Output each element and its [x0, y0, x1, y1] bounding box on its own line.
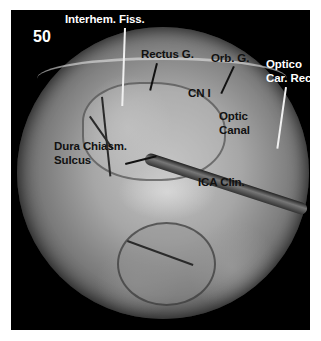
label-cn-i: CN I — [188, 87, 211, 100]
label-optic-canal-line1: Optic — [219, 110, 248, 123]
image-panel: 50 Interhem. Fiss. Rectus G. Orb. G. Opt… — [11, 10, 310, 330]
label-optic-canal-line2: Canal — [219, 124, 250, 137]
label-optico-car-rec-line2: Car. Rec. — [266, 72, 310, 85]
figure-number: 50 — [33, 28, 51, 46]
label-optico-car-rec-line1: Optico — [266, 58, 302, 71]
label-dura-chiasm-sulcus-line1: Dura Chiasm. — [54, 140, 127, 153]
lower-structure — [117, 222, 216, 306]
label-interhem-fiss: Interhem. Fiss. — [65, 13, 145, 26]
label-dura-chiasm-sulcus-line2: Sulcus — [54, 154, 91, 167]
label-ica-clin: ICA Clin. — [198, 176, 245, 189]
label-rectus-g: Rectus G. — [141, 48, 194, 61]
label-orb-g: Orb. G. — [211, 52, 249, 65]
